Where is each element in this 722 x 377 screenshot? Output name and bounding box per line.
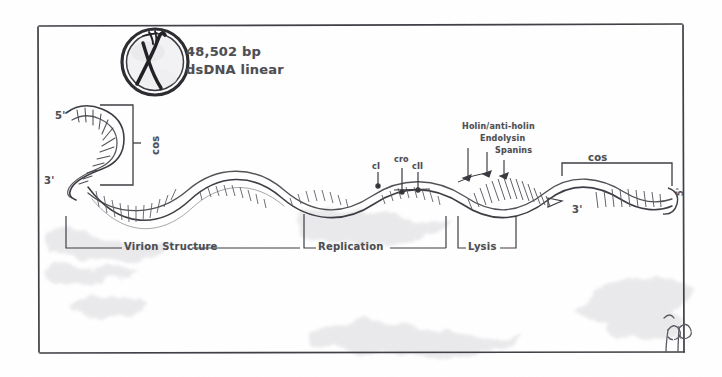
gene-label-cII: cII (412, 162, 423, 171)
genome-size-label: 48,502 bp (186, 44, 261, 59)
region-label-lysis: Lysis (468, 241, 497, 252)
right-cos-label: cos (588, 152, 607, 163)
lambda-phage-circle-icon (122, 29, 188, 95)
right-five-prime-label: 5' (676, 188, 685, 196)
left-five-prime-label: 5' (55, 110, 65, 121)
gene-label-endolysin: Endolysin (480, 134, 525, 143)
left-three-prime-label: 3' (44, 175, 54, 186)
genome-type-label: dsDNA linear (186, 62, 284, 77)
gene-label-cro: cro (394, 155, 409, 164)
region-label-replication: Replication (318, 241, 384, 252)
right-three-prime-label: 3' (572, 204, 582, 215)
figure-canvas (0, 0, 722, 377)
region-label-virion-structure: Virion Structure (124, 241, 218, 252)
gene-label-cI: cI (372, 162, 380, 171)
left-cos-label: cos (150, 136, 161, 155)
gene-label-holin-anti-holin: Holin/anti-holin (462, 122, 535, 131)
gene-label-spanins: Spanins (495, 146, 532, 155)
